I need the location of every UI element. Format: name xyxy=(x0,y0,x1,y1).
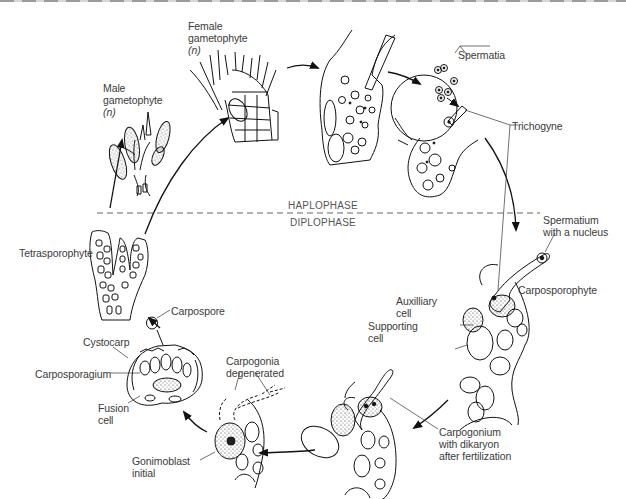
label-tetrasporophyte: Tetrasporophyte xyxy=(19,247,93,259)
gonimoblast-drawing xyxy=(200,372,285,488)
trichogyne-leaders xyxy=(455,46,518,290)
male-gametophyte-drawing xyxy=(106,112,173,196)
leader-gonimoblast xyxy=(200,452,215,460)
label-spermatia: Spermatia xyxy=(458,49,505,61)
label-auxiliary-cell: Auxilliary cell xyxy=(396,295,437,319)
label-carposporagium: Carposporagium xyxy=(35,368,111,380)
leader-cystocarp xyxy=(113,347,128,358)
female-gametophyte-drawing xyxy=(190,50,278,142)
label-supporting-cell: Supporting cell xyxy=(368,320,418,344)
life-cycle-drawing xyxy=(0,0,626,499)
cystocarp-drawing xyxy=(127,317,202,405)
label-spermatium-with-nucleus: Spermatium with a nucleus xyxy=(543,214,608,238)
label-male-gametophyte: Male gametophyte (n) xyxy=(103,82,163,118)
leader-carpospore xyxy=(157,310,170,318)
carposporophyte-drawing xyxy=(460,253,550,430)
label-fusion-cell: Fusion cell xyxy=(98,402,129,426)
label-carpospore: Carpospore xyxy=(171,305,225,317)
trichogyne-stage-drawing xyxy=(320,30,395,165)
label-carpogonium-dikaryon: Carpogonium with dikaryon after fertiliz… xyxy=(439,426,511,462)
label-carposporophyte: Carposporophyte xyxy=(518,284,597,296)
label-female-gametophyte: Female gametophyte (n) xyxy=(188,20,248,56)
tetrasporophyte-drawing xyxy=(90,231,148,320)
label-carpogonia-degenerated: Carpogonia degenerated xyxy=(226,355,284,379)
label-diplophase: DIPLOPHASE xyxy=(290,217,356,229)
label-trichogyne: Trichogyne xyxy=(512,120,563,132)
label-gonimoblast-initial: Gonimoblast initial xyxy=(132,455,190,479)
spermatia-stage-drawing xyxy=(391,65,478,197)
label-haplophase: HAPLOPHASE xyxy=(288,200,358,212)
leader-supporting xyxy=(455,345,467,349)
leader-carpogonium xyxy=(390,398,438,429)
carpogonium-dikaryon-drawing xyxy=(296,370,438,499)
label-cystocarp: Cystocarp xyxy=(83,336,129,348)
